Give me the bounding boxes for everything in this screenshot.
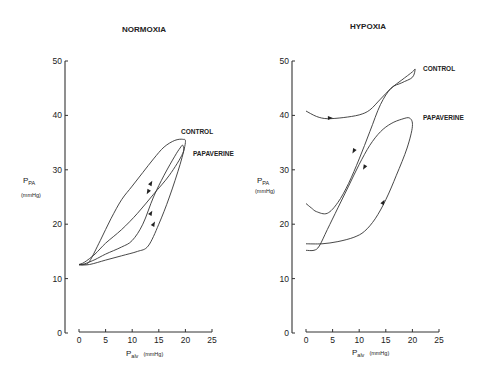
series-papaverine (306, 118, 412, 251)
x-tick-label: 20 (181, 335, 191, 345)
x-tick-label: 15 (381, 335, 391, 345)
direction-arrow-icon (148, 210, 154, 216)
curves (306, 69, 415, 251)
x-axis-label: Palv(mmHg) (352, 348, 389, 358)
y-axis-label: PPA (mmHg) (255, 176, 275, 194)
annotation-papaverine: PAPAVERINE (423, 114, 464, 121)
svg-text:PPA: PPA (257, 176, 270, 186)
y-tick-label: 20 (53, 219, 63, 229)
svg-text:(mmHg): (mmHg) (255, 188, 275, 194)
panel-title: HYPOXIA (350, 22, 386, 31)
y-tick-label: 20 (280, 219, 290, 229)
axes: 010203040500510152025 (53, 56, 217, 345)
x-tick-label: 0 (304, 335, 309, 345)
svg-text:PPA: PPA (23, 176, 36, 186)
annotation-control: CONTROL (181, 128, 213, 135)
svg-text:Palv(mmHg): Palv(mmHg) (126, 349, 163, 359)
y-tick-label: 40 (53, 110, 63, 120)
svg-text:Palv(mmHg): Palv(mmHg) (352, 348, 389, 358)
x-tick-label: 5 (103, 335, 108, 345)
x-tick-label: 15 (154, 335, 164, 345)
y-axis-label: PPA (mmHg) (21, 176, 41, 198)
direction-arrow-icon (328, 116, 333, 120)
y-tick-label: 50 (53, 56, 63, 66)
hypoxia-panel: HYPOXIA 010203040500510152025 CONTROL PA… (255, 22, 464, 358)
x-tick-label: 25 (434, 335, 444, 345)
x-tick-label: 0 (77, 335, 82, 345)
direction-arrow-icon (351, 148, 357, 154)
x-tick-label: 20 (408, 335, 418, 345)
direction-arrow-icon (148, 180, 154, 186)
normoxia-panel: NORMOXIA 010203040500510152025 CONTROL P… (21, 25, 234, 359)
y-tick-label: 0 (284, 328, 289, 338)
axes: 010203040500510152025 (280, 56, 444, 345)
x-tick-label: 25 (207, 335, 217, 345)
x-axis-label: Palv(mmHg) (126, 349, 163, 359)
series-control (306, 69, 415, 214)
svg-text:(mmHg): (mmHg) (21, 192, 41, 198)
annotation-papaverine: PAPAVERINE (193, 150, 234, 157)
x-tick-label: 10 (127, 335, 137, 345)
curves (79, 139, 185, 265)
figure: NORMOXIA 010203040500510152025 CONTROL P… (0, 0, 480, 380)
y-tick-label: 30 (53, 165, 63, 175)
y-tick-label: 10 (280, 274, 290, 284)
panel-title: NORMOXIA (122, 25, 166, 34)
series-control (79, 139, 185, 265)
annotation-control: CONTROL (423, 65, 455, 72)
direction-arrow-icon (145, 189, 151, 195)
y-tick-label: 40 (280, 110, 290, 120)
y-tick-label: 0 (57, 328, 62, 338)
series-papaverine (79, 145, 184, 264)
direction-arrow-icon (361, 164, 367, 170)
y-tick-label: 50 (280, 56, 290, 66)
x-tick-label: 5 (330, 335, 335, 345)
x-tick-label: 10 (354, 335, 364, 345)
direction-arrow-icon (151, 221, 157, 227)
y-tick-label: 10 (53, 274, 63, 284)
y-tick-label: 30 (280, 165, 290, 175)
